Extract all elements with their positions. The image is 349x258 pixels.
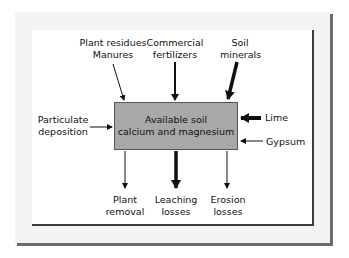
label-plant-removal: Plant removal <box>105 194 145 218</box>
label-soil-minerals: Soil minerals <box>220 37 260 61</box>
label-lime: Lime <box>265 112 288 124</box>
arrow-plant-residues <box>113 64 124 100</box>
label-leaching-losses: Leaching losses <box>153 194 199 218</box>
label-particulate-deposition: Particulate deposition <box>36 114 90 138</box>
center-box-line2: calcium and magnesium <box>118 126 235 138</box>
center-box-available-ca-mg: Available soil calcium and magnesium <box>114 102 238 150</box>
label-erosion-losses: Erosion losses <box>208 194 248 218</box>
center-box-line1: Available soil <box>145 114 207 126</box>
label-commercial-fertilizers: Commercial fertilizers <box>145 37 205 61</box>
arrow-soil-minerals <box>228 62 237 99</box>
label-gypsum: Gypsum <box>266 136 305 148</box>
label-plant-residues: Plant residues Manures <box>78 37 148 61</box>
